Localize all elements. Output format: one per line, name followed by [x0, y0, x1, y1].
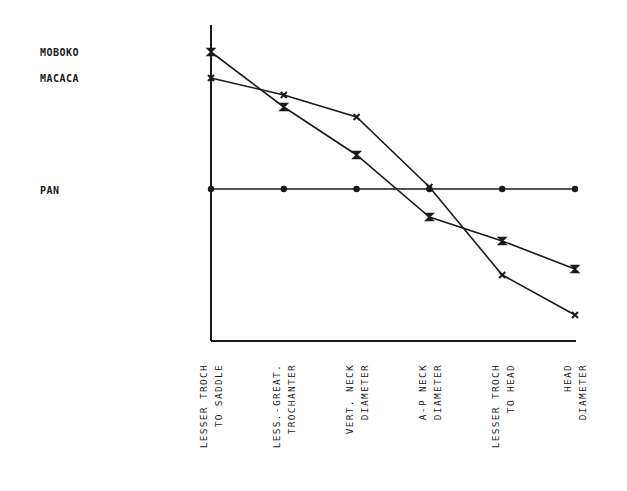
x-tick-label-2: LESS.-GREAT. TROCHANTER	[269, 364, 303, 474]
tick-line-2: DIAMETER	[357, 364, 372, 474]
marker-pan	[281, 186, 287, 192]
tick-line-2: TO SADDLE	[211, 364, 226, 474]
tick-line-2: DIAMETER	[575, 364, 590, 474]
tick-line-1: LESSER TROCH	[196, 364, 211, 474]
tick-line-2: DIAMETER	[430, 364, 445, 474]
marker-moboko	[353, 152, 360, 159]
tick-line-1: LESSER TROCH	[488, 364, 503, 474]
tick-line-2: TO HEAD	[503, 364, 518, 474]
marker-moboko	[208, 49, 215, 56]
marker-moboko	[572, 266, 579, 273]
chart: MOBOKO MACACA PAN LESSER TROCH TO SADDLE…	[0, 0, 627, 491]
series-label-pan: PAN	[40, 185, 60, 196]
series-line-moboko	[211, 52, 575, 269]
marker-macaca	[499, 272, 505, 278]
x-tick-label-4: A-P NECK DIAMETER	[415, 364, 449, 474]
x-tick-label-1: LESSER TROCH TO SADDLE	[196, 364, 230, 474]
series-line-macaca	[211, 78, 575, 315]
tick-line-1: LESS.-GREAT.	[269, 364, 284, 474]
plot-area	[0, 0, 627, 491]
marker-pan	[572, 186, 578, 192]
x-tick-label-5: LESSER TROCH TO HEAD	[488, 364, 522, 474]
tick-line-1: HEAD	[560, 364, 575, 474]
tick-line-1: A-P NECK	[415, 364, 430, 474]
tick-line-1: VERT. NECK	[342, 364, 357, 474]
marker-macaca	[572, 312, 578, 318]
marker-pan	[208, 186, 214, 192]
marker-pan	[499, 186, 505, 192]
x-tick-label-3: VERT. NECK DIAMETER	[342, 364, 376, 474]
series-label-macaca: MACACA	[40, 73, 79, 84]
x-tick-label-6: HEAD DIAMETER	[560, 364, 594, 474]
tick-line-2: TROCHANTER	[284, 364, 299, 474]
marker-pan	[426, 186, 432, 192]
marker-pan	[353, 186, 359, 192]
marker-moboko	[280, 104, 287, 111]
series-label-moboko: MOBOKO	[40, 47, 79, 58]
